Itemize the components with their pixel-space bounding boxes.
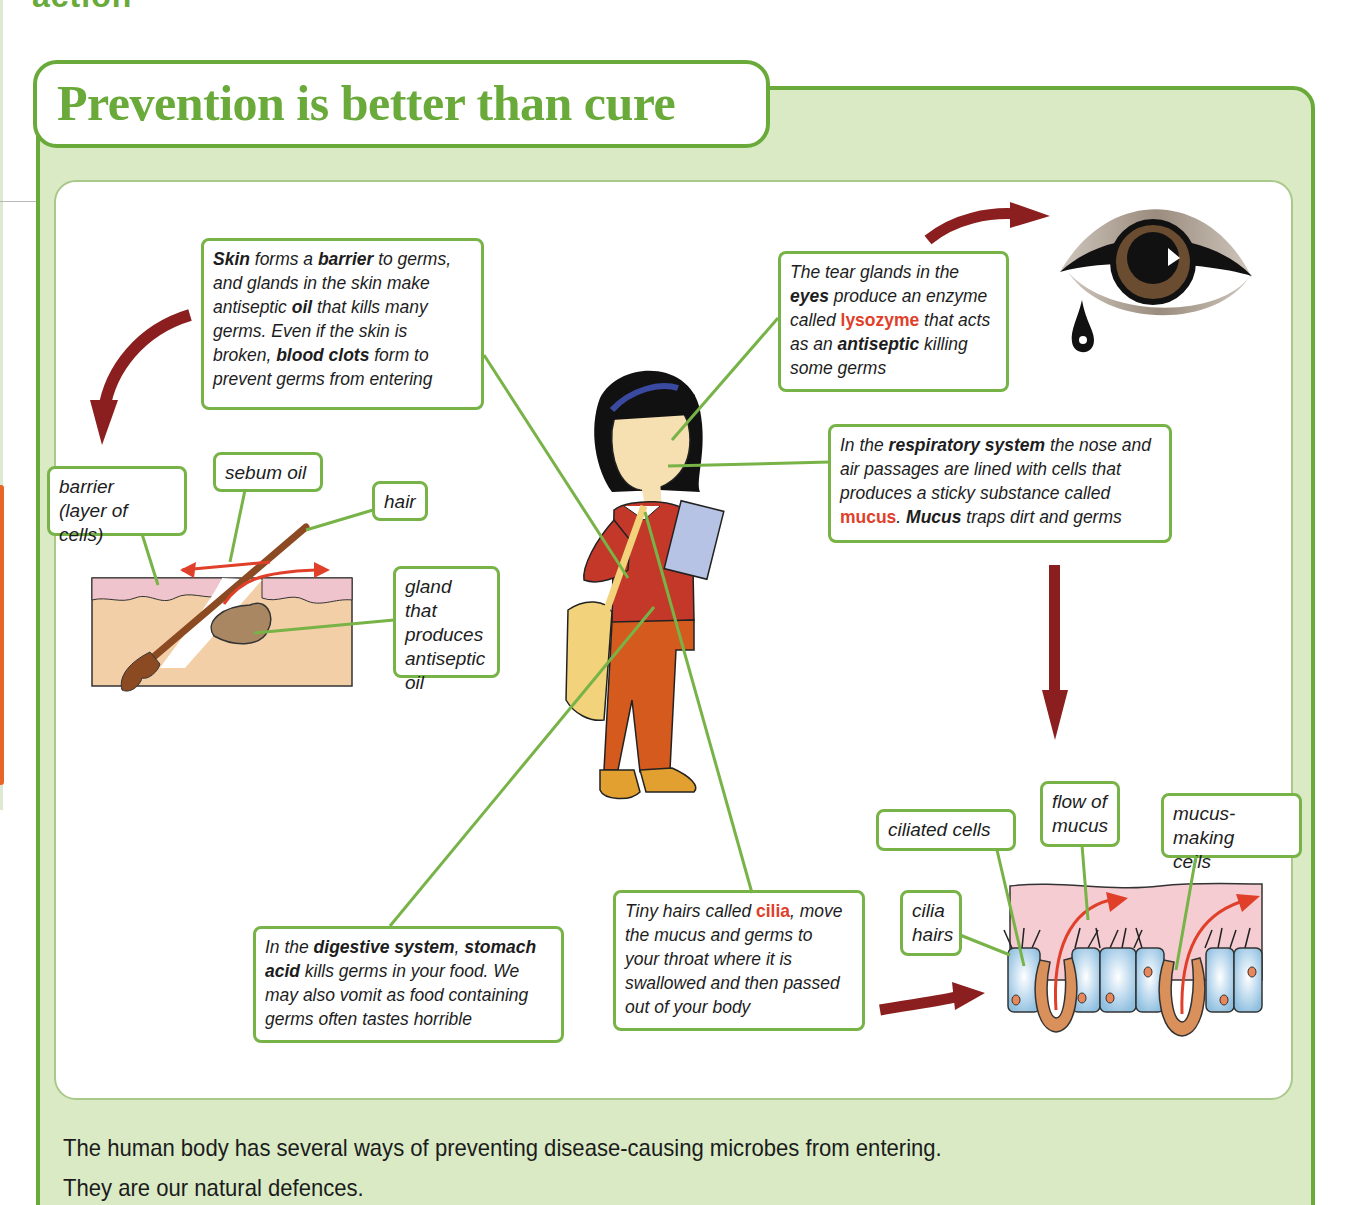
callout-line: eyes produce an enzyme: [790, 284, 987, 308]
highlight-term: cilia: [756, 900, 790, 921]
bold-term: blood clots: [276, 344, 369, 365]
text-run: ,: [454, 936, 464, 957]
text-run: traps dirt and germs: [961, 506, 1121, 527]
text-run: In the: [265, 936, 314, 957]
callout-line: may also vomit as food containing: [265, 983, 528, 1007]
callout-line: In the respiratory system the nose and: [840, 433, 1151, 457]
text-run: the mucus and germs to: [625, 924, 813, 945]
callout-line: Skin forms a barrier to germs,: [213, 247, 451, 271]
label-hair: hair: [372, 481, 428, 521]
text-run: antiseptic: [213, 296, 292, 317]
callout-line: some germs: [790, 356, 886, 380]
callout-skin: Skin forms a barrier to germs,and glands…: [201, 238, 484, 410]
callout-eyes: The tear glands in theeyes produce an en…: [778, 251, 1009, 392]
callout-line: your throat where it is: [625, 947, 792, 971]
callout-line: The tear glands in the: [790, 260, 959, 284]
footer-caption: The human body has several ways of preve…: [63, 1128, 942, 1205]
text-run: as an: [790, 333, 838, 354]
callout-line: the mucus and germs to: [625, 923, 813, 947]
highlight-term: lysozyme: [841, 309, 920, 330]
label-barrier: barrier (layer of cells): [47, 466, 187, 536]
callout-cilia: Tiny hairs called cilia, movethe mucus a…: [613, 890, 865, 1031]
label-gland: gland that produces antiseptic oil: [393, 566, 500, 678]
text-run: The tear glands in the: [790, 261, 959, 282]
label-sebum-oil: sebum oil: [213, 452, 323, 492]
highlight-term: mucus: [840, 506, 896, 527]
callout-line: called lysozyme that acts: [790, 308, 990, 332]
text-run: prevent germs from entering: [213, 368, 433, 389]
text-run: that kills many: [312, 296, 428, 317]
text-run: called: [790, 309, 841, 330]
bold-term: digestive system: [314, 936, 455, 957]
footer-line-1: The human body has several ways of preve…: [63, 1128, 942, 1168]
callout-line: air passages are lined with cells that: [840, 457, 1121, 481]
bold-term: antiseptic: [838, 333, 920, 354]
callout-line: germs. Even if the skin is: [213, 319, 407, 343]
callout-line: produces a sticky substance called: [840, 481, 1110, 505]
text-run: may also vomit as food containing: [265, 984, 528, 1005]
text-run: to germs,: [373, 248, 451, 269]
callout-line: prevent germs from entering: [213, 367, 433, 391]
bold-term: eyes: [790, 285, 829, 306]
bold-term: stomach: [464, 936, 536, 957]
callout-line: out of your body: [625, 995, 750, 1019]
text-run: produces a sticky substance called: [840, 482, 1110, 503]
page-title: Prevention is better than cure: [57, 74, 675, 132]
text-run: and glands in the skin make: [213, 272, 430, 293]
callout-line: mucus. Mucus traps dirt and germs: [840, 505, 1122, 529]
label-mucus-making-cells: mucus-making cells: [1161, 793, 1302, 858]
callout-line: swallowed and then passed: [625, 971, 840, 995]
text-run: kills germs in your food. We: [300, 960, 519, 981]
text-run: swallowed and then passed: [625, 972, 840, 993]
bold-term: Mucus: [906, 506, 961, 527]
callout-line: In the digestive system, stomach: [265, 935, 536, 959]
text-run: produce an enzyme: [829, 285, 987, 306]
text-run: , move: [790, 900, 842, 921]
bold-term: barrier: [318, 248, 373, 269]
bold-term: respiratory system: [889, 434, 1045, 455]
text-run: germs often tastes horrible: [265, 1008, 472, 1029]
text-run: Tiny hairs called: [625, 900, 756, 921]
callout-line: and glands in the skin make: [213, 271, 430, 295]
text-run: some germs: [790, 357, 886, 378]
text-run: air passages are lined with cells that: [840, 458, 1121, 479]
callout-line: Tiny hairs called cilia, move: [625, 899, 842, 923]
bold-term: acid: [265, 960, 300, 981]
clipped-previous-heading: action: [32, 0, 132, 15]
callout-line: broken, blood clots form to: [213, 343, 429, 367]
page-edge-tab: [0, 485, 4, 785]
bold-term: Skin: [213, 248, 250, 269]
text-run: that acts: [919, 309, 990, 330]
text-run: out of your body: [625, 996, 750, 1017]
text-run: germs. Even if the skin is: [213, 320, 407, 341]
callout-line: as an antiseptic killing: [790, 332, 968, 356]
callout-line: germs often tastes horrible: [265, 1007, 472, 1031]
text-run: form to: [369, 344, 428, 365]
label-ciliated-cells: ciliated cells: [876, 809, 1016, 851]
title-tab: Prevention is better than cure: [33, 60, 770, 148]
text-run: In the: [840, 434, 889, 455]
callout-digestive: In the digestive system, stomachacid kil…: [253, 926, 564, 1043]
callout-line: acid kills germs in your food. We: [265, 959, 519, 983]
label-cilia-hairs: cilia hairs: [900, 890, 962, 956]
text-run: .: [896, 506, 906, 527]
footer-line-2: They are our natural defences.: [63, 1168, 942, 1205]
text-run: killing: [919, 333, 968, 354]
callout-line: antiseptic oil that kills many: [213, 295, 428, 319]
text-run: the nose and: [1045, 434, 1151, 455]
text-run: forms a: [250, 248, 318, 269]
bold-term: oil: [292, 296, 312, 317]
callout-respiratory: In the respiratory system the nose andai…: [828, 424, 1172, 543]
text-run: broken,: [213, 344, 276, 365]
label-flow-of-mucus: flow of mucus: [1040, 781, 1120, 847]
text-run: your throat where it is: [625, 948, 792, 969]
